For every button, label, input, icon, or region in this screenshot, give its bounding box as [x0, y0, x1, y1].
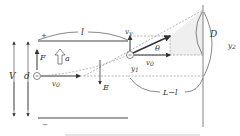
- shaded-region: [170, 10, 203, 55]
- electron-deflection-diagram: + − l V d F a v0 E vy v0 y1 θ D y2 L−l: [0, 0, 240, 136]
- length-label: l: [81, 27, 84, 37]
- D-label: D: [209, 29, 217, 39]
- total-deflection-brace: [204, 12, 212, 76]
- minus-sign: −: [42, 121, 48, 129]
- vy-label: vy: [125, 28, 133, 37]
- force-label: F: [39, 53, 46, 62]
- voltage-label: V: [9, 71, 17, 81]
- y1-label: y1: [130, 65, 139, 73]
- length-brace-right: [88, 32, 128, 40]
- angle-label: θ: [155, 44, 160, 53]
- trajectory: [41, 55, 128, 76]
- separation-label: d: [24, 71, 30, 81]
- drift-length-label: L−l: [162, 88, 178, 97]
- y2-label: y2: [227, 42, 236, 50]
- plus-sign: +: [41, 32, 47, 40]
- v0-right-label: v0: [146, 59, 154, 67]
- field-label: E: [102, 83, 109, 92]
- v0-left-label: v0: [52, 80, 60, 88]
- acceleration-arrow-icon: [55, 49, 65, 64]
- acceleration-label: a: [65, 54, 70, 63]
